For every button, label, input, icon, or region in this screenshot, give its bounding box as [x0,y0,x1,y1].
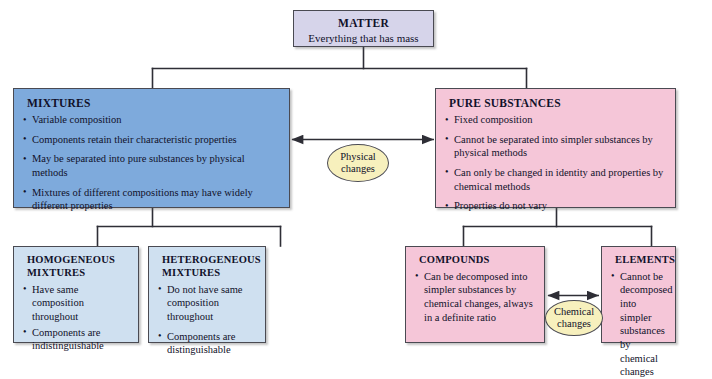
physical-changes-line1: Physical [340,151,376,163]
list-item: Variable composition [23,113,281,127]
list-item: Components retain their characteristic p… [23,133,281,147]
node-elements-title: ELEMENTS [615,254,667,267]
node-compounds[interactable]: COMPOUNDS Can be decomposed into simpler… [405,246,545,343]
node-homogeneous-mixtures-bullets: Have same composition throughout Compone… [23,283,130,353]
node-heterogeneous-mixtures-title: HETEROGENEOUS MIXTURES [162,254,257,280]
node-homogeneous-mixtures[interactable]: HOMOGENEOUS MIXTURES Have same compositi… [13,246,139,343]
list-item: Fixed composition [445,113,667,127]
node-homogeneous-mixtures-title: HOMOGENEOUS MIXTURES [27,254,130,280]
node-mixtures-title: MIXTURES [27,96,281,110]
list-item: Properties do not vary [445,199,667,213]
node-heterogeneous-mixtures-bullets: Do not have same composition throughout … [158,283,257,357]
node-matter-subtitle: Everything that has mass [298,31,429,45]
list-item: Can only be changed in identity and prop… [445,166,667,193]
node-compounds-bullets: Can be decomposed into simpler substance… [415,270,536,325]
list-item: Components are distinguishable [158,330,257,357]
physical-changes-line2: changes [341,163,375,175]
node-compounds-title: COMPOUNDS [419,254,536,267]
physical-changes-label[interactable]: Physical changes [327,144,389,182]
node-matter-title: MATTER [298,16,429,30]
node-pure-substances-title: PURE SUBSTANCES [449,96,667,110]
chemical-changes-line1: Chemical [554,306,594,318]
node-elements[interactable]: ELEMENTS Cannot be decomposed into simpl… [601,246,676,343]
list-item: Cannot be decomposed into simpler substa… [611,270,667,379]
node-pure-substances-bullets: Fixed composition Cannot be separated in… [445,113,667,213]
list-item: Do not have same composition throughout [158,283,257,324]
list-item: Have same composition throughout [23,283,130,324]
node-matter[interactable]: MATTER Everything that has mass [293,10,434,47]
node-elements-bullets: Cannot be decomposed into simpler substa… [611,270,667,379]
chemical-changes-label[interactable]: Chemical changes [545,300,603,336]
list-item: Cannot be separated into simpler substan… [445,133,667,160]
node-heterogeneous-mixtures[interactable]: HETEROGENEOUS MIXTURES Do not have same … [148,246,266,343]
list-item: Components are indistinguishable [23,326,130,353]
chemical-changes-line2: changes [557,318,591,330]
list-item: Can be decomposed into simpler substance… [415,270,536,325]
node-mixtures[interactable]: MIXTURES Variable composition Components… [13,88,290,208]
node-pure-substances[interactable]: PURE SUBSTANCES Fixed composition Cannot… [435,88,676,208]
list-item: Mixtures of different compositions may h… [23,186,281,213]
node-mixtures-bullets: Variable composition Components retain t… [23,113,281,213]
list-item: May be separated into pure substances by… [23,152,281,179]
